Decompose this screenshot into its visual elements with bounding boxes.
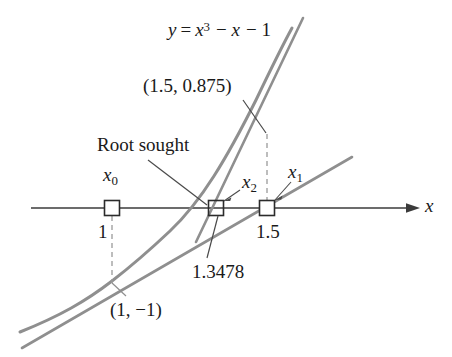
leader-root-sought xyxy=(148,160,207,205)
x0-label: x0 xyxy=(103,165,118,188)
x-axis-label: x xyxy=(425,196,433,215)
x2-label: x2 xyxy=(242,172,257,195)
low-point-label: (1, −1) xyxy=(110,300,162,319)
diagram-graphics xyxy=(0,0,452,357)
x1-label: x1 xyxy=(288,162,303,185)
tick-label-1point5: 1.5 xyxy=(256,222,280,241)
x2-subscript: 2 xyxy=(250,180,256,195)
high-point-label: (1.5, 0.875) xyxy=(143,76,232,95)
x2-value-label: 1.3478 xyxy=(192,262,244,281)
leader-x2-label xyxy=(224,190,240,201)
x0-subscript: 0 xyxy=(111,173,117,188)
marker-x0 xyxy=(105,201,120,216)
x-axis-arrowhead xyxy=(406,203,420,213)
tangent-line-at-x0 xyxy=(22,157,352,348)
root-sought-label: Root sought xyxy=(97,135,189,154)
equation-x: x xyxy=(195,19,203,40)
figure-canvas: y=x3− x− 1 (1.5, 0.875) Root sought x0 x… xyxy=(0,0,452,357)
equation-equals: = xyxy=(180,19,191,40)
equation-exponent: 3 xyxy=(204,19,210,34)
tick-label-1: 1 xyxy=(98,222,108,241)
marker-x1 xyxy=(260,201,275,216)
equation-minus-x: − x xyxy=(216,19,240,40)
equation-label: y=x3− x− 1 xyxy=(168,20,271,39)
equation-y: y xyxy=(168,19,176,40)
x1-subscript: 1 xyxy=(296,170,302,185)
x-axis xyxy=(31,203,420,213)
equation-minus-one: − 1 xyxy=(246,19,271,40)
